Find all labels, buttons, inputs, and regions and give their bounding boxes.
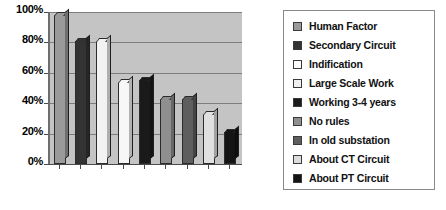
legend-item: In old substation (293, 131, 430, 150)
legend-label: About PT Circuit (309, 173, 389, 184)
legend-label: No rules (309, 116, 349, 127)
legend-swatch-icon (293, 174, 302, 183)
x-tick-mark (59, 165, 60, 169)
bars-layer (50, 12, 242, 164)
y-axis: 0%20%40%60%80%100% (0, 8, 46, 166)
legend-label: Human Factor (309, 21, 377, 32)
legend-label: Secondary Circuit (309, 40, 395, 51)
bar (139, 80, 151, 164)
legend-item: Human Factor (293, 17, 430, 36)
bar-side-face (214, 107, 218, 159)
x-tick-mark (229, 165, 230, 169)
x-axis-baseline (48, 164, 242, 165)
bar (203, 114, 215, 164)
legend-swatch-icon (293, 136, 302, 145)
bar-side-face (107, 35, 111, 159)
x-tick-mark (187, 165, 188, 169)
percentage-bar-chart: 0%20%40%60%80%100% Human FactorSecondary… (0, 0, 446, 210)
bar (75, 41, 87, 164)
y-tick-label: 80% (22, 34, 43, 44)
legend-item: About CT Circuit (293, 150, 430, 169)
x-tick-mark (80, 165, 81, 169)
legend-item: Large Scale Work (293, 74, 430, 93)
bar-side-face (171, 92, 175, 159)
x-tick-mark (208, 165, 209, 169)
legend-swatch-icon (293, 155, 302, 164)
x-tick-mark (123, 165, 124, 169)
y-tick-label: 60% (22, 65, 43, 75)
bar-side-face (86, 35, 90, 159)
bar-side-face (65, 9, 69, 159)
bar-side-face (129, 76, 133, 159)
y-tick-mark (44, 73, 48, 74)
bar (224, 132, 236, 164)
legend-label: Large Scale Work (309, 78, 394, 89)
bar (118, 82, 130, 164)
legend: Human FactorSecondary CircuitIndificatio… (283, 10, 435, 190)
legend-label: Working 3-4 years (309, 97, 396, 108)
legend-label: Indification (309, 59, 363, 70)
legend-item: No rules (293, 112, 430, 131)
bar-side-face (235, 126, 239, 159)
bar-side-face (193, 92, 197, 159)
y-tick-mark (44, 12, 48, 13)
bar (182, 99, 194, 164)
x-tick-mark (101, 165, 102, 169)
plot-area (48, 12, 242, 164)
legend-label: About CT Circuit (309, 154, 389, 165)
bar (160, 99, 172, 164)
bar (96, 41, 108, 164)
y-tick-label: 20% (22, 126, 43, 136)
y-tick-mark (44, 103, 48, 104)
x-tick-mark (165, 165, 166, 169)
y-tick-mark (44, 164, 48, 165)
y-tick-label: 100% (16, 4, 43, 14)
legend-swatch-icon (293, 98, 302, 107)
legend-item: Secondary Circuit (293, 36, 430, 55)
legend-swatch-icon (293, 117, 302, 126)
legend-swatch-icon (293, 22, 302, 31)
y-tick-mark (44, 42, 48, 43)
legend-label: In old substation (309, 135, 390, 146)
legend-swatch-icon (293, 60, 302, 69)
legend-item: About PT Circuit (293, 169, 430, 188)
x-tick-mark (144, 165, 145, 169)
y-tick-mark (44, 134, 48, 135)
bar (54, 15, 66, 164)
y-tick-label: 40% (22, 95, 43, 105)
legend-item: Working 3-4 years (293, 93, 430, 112)
legend-item: Indification (293, 55, 430, 74)
legend-swatch-icon (293, 41, 302, 50)
legend-swatch-icon (293, 79, 302, 88)
y-tick-label: 0% (28, 156, 43, 166)
legend-list: Human FactorSecondary CircuitIndificatio… (293, 17, 430, 188)
bar-side-face (150, 74, 154, 159)
